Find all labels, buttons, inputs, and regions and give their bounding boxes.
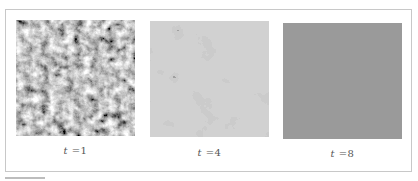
panel-t8-uniform-image — [283, 23, 402, 139]
coarse-cluster-texture — [150, 21, 269, 137]
panel-t1-noise-image — [16, 20, 135, 136]
caption-t4: t =4 — [150, 147, 269, 158]
fine-noise-texture — [16, 20, 135, 136]
panel-t4-cluster-image — [150, 21, 269, 137]
page-edge-marker — [5, 177, 45, 179]
caption-t1: t =1 — [16, 145, 135, 156]
caption-t8: t =8 — [283, 148, 402, 159]
